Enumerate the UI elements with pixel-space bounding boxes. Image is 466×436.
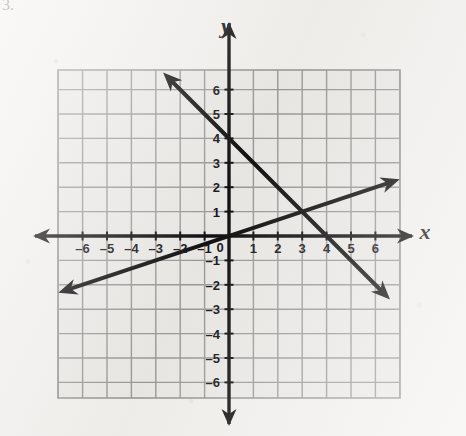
y-tick-label: 5	[213, 107, 220, 122]
x-tick-label: –6	[75, 241, 89, 256]
x-tick-label: –3	[149, 241, 163, 256]
x-tick-label: 2	[274, 241, 281, 256]
y-tick-label: 3	[213, 156, 220, 171]
y-tick-label: 2	[213, 180, 220, 195]
x-tick-label: –4	[124, 241, 139, 256]
y-tick-label: 1	[213, 205, 220, 220]
x-tick-label: 1	[250, 241, 257, 256]
x-axis-label: x	[419, 219, 431, 244]
x-tick-label: 5	[347, 241, 354, 256]
coordinate-plane: –6–5–4–3–2–10123456654321–1–2–3–4–5–6 x …	[0, 0, 466, 436]
x-tick-label: 4	[323, 241, 331, 256]
y-tick-label: –5	[206, 351, 220, 366]
y-tick-label: –4	[206, 327, 221, 342]
y-tick-label: –3	[206, 302, 220, 317]
y-tick-label: 6	[213, 83, 220, 98]
x-tick-label: 3	[299, 241, 306, 256]
y-tick-label: –6	[206, 375, 220, 390]
x-tick-label: –5	[100, 241, 114, 256]
y-tick-label: 4	[213, 131, 221, 146]
y-axis-label: y	[218, 13, 231, 38]
y-tick-label: –2	[206, 278, 220, 293]
problem-number: 3.	[2, 0, 14, 14]
y-tick-label: –1	[206, 253, 220, 268]
graph-page: 3. –6–5–4–3–2–10123456654321–1–2–3–4–5–6…	[0, 0, 466, 436]
x-tick-label: –2	[173, 241, 187, 256]
x-tick-label: 6	[372, 241, 379, 256]
